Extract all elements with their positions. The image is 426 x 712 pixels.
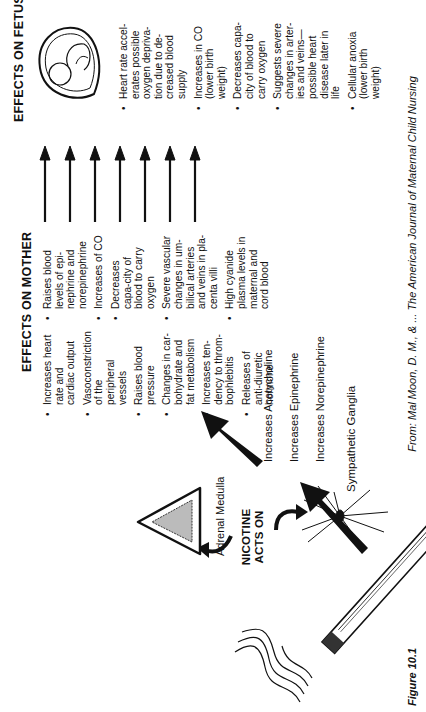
mother-effects-column-1: Increases heart rate and cardiac output …: [42, 332, 281, 416]
figure-source: From: Mal Moon, D. M., & ... The America…: [406, 76, 418, 452]
mother-effect-item: Increases heart rate and cardiac output: [42, 332, 77, 416]
mother-effects-column-2: Raises blood levels of epi-nephrine and …: [42, 234, 276, 320]
arrow-right-icon: [140, 146, 150, 222]
figure-number: Figure 10.1: [406, 648, 418, 706]
neurotransmitter-item: Increases Epinephrine: [288, 336, 301, 462]
mother-effect-item: Releases of anti-diuretic hormone: [241, 332, 276, 416]
mother-heading: EFFECTS ON MOTHER: [20, 232, 34, 372]
arrow-right-icon: [40, 146, 50, 222]
arrow-right-icon: [190, 146, 200, 222]
fetus-heading: EFFECTS ON FETUS: [12, 0, 26, 122]
mother-effect-item: Severe vascular changes in um-bilical ar…: [161, 234, 219, 320]
arrow-right-icon: [65, 146, 75, 222]
adrenal-medulla-icon: [130, 482, 210, 562]
fetus-effect-item: Cellular anoxia (lower birth weight): [347, 20, 382, 110]
sympathetic-ganglia-label: Sympathetic Ganglia: [345, 386, 357, 492]
nicotine-label-line1: NICOTINE: [240, 492, 253, 582]
mother-effect-item: Raises blood pressure: [133, 332, 156, 416]
neurotransmitter-item: Increases Norepinephrine: [314, 336, 327, 462]
fetus-in-womb-icon: [34, 24, 108, 104]
figure-caption: Figure 10.1 From: Mal Moon, D. M., & ...…: [406, 76, 418, 706]
adrenal-medulla-label: Adrenal Medulla: [214, 477, 226, 557]
mother-effect-item: High cyanide plasma levels in maternal a…: [224, 234, 270, 320]
mother-effect-item: Increases of CO: [93, 234, 105, 320]
arrow-right-icon: [90, 146, 100, 222]
nicotine-label-line2: ACTS ON: [253, 492, 266, 582]
nicotine-label: NICOTINE ACTS ON: [240, 492, 266, 582]
fetus-effects-list: Heart rate accel-erates possible oxygen …: [118, 20, 386, 110]
arrow-to-mother-icon: [195, 407, 265, 477]
fetus-effect-item: Decreases capa-city of blood to carry ox…: [232, 20, 267, 110]
sympathetic-ganglia-icon: [300, 482, 390, 552]
arrow-right-icon: [165, 146, 175, 222]
fetus-effect-item: Heart rate accel-erates possible oxygen …: [118, 20, 188, 110]
mother-effect-item: Decreases capa-city of blood to carry ox…: [110, 234, 156, 320]
arrows-to-fetus: [40, 144, 220, 224]
mother-effect-item: Vasoconstriction of the peripheral vesse…: [82, 332, 128, 416]
mother-effect-item: Changes in car-bohydrate and fat metabol…: [161, 332, 196, 416]
fetus-effect-item: Increases in CO (lower birth weight): [193, 20, 228, 110]
arrow-right-icon: [115, 146, 125, 222]
figure-canvas: NICOTINE ACTS ON Adrenal Medulla Sympath…: [0, 0, 426, 712]
fetus-effect-item: Suggests severe changes in arter-ies and…: [272, 20, 342, 110]
mother-effect-item: Increases ten-dency to throm-bophlebitis: [201, 332, 236, 416]
mother-effect-item: Raises blood levels of epi-nephrine and …: [42, 234, 88, 320]
